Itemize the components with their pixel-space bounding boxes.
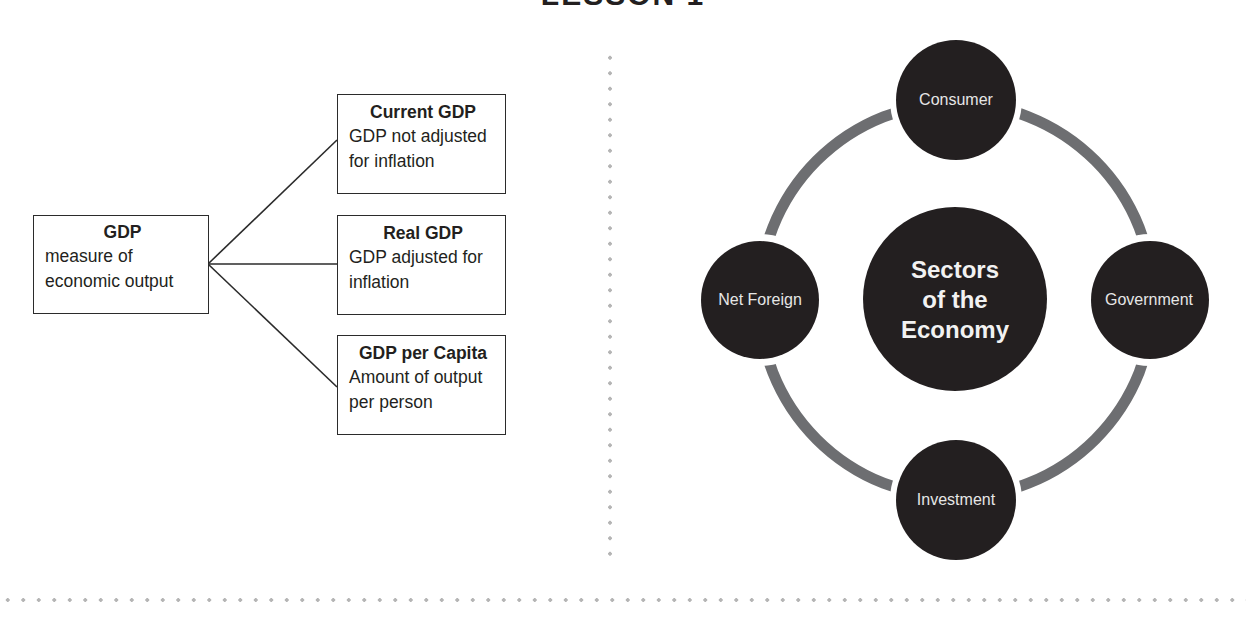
investment-label: Investment [917, 490, 995, 510]
sectors-cycle-diagram [0, 0, 1246, 617]
center-label: Sectors of the Economy [901, 255, 1009, 345]
government-label: Government [1105, 290, 1193, 310]
net-foreign-label: Net Foreign [718, 290, 802, 310]
consumer-label: Consumer [919, 90, 993, 110]
